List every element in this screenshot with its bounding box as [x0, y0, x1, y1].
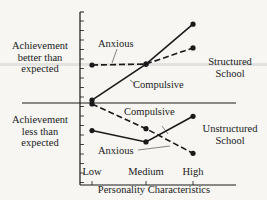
- y-region-label-top-line3: expected: [6, 63, 74, 75]
- x-axis-title: Personality Characteristics: [92, 184, 216, 196]
- group-label-unstructured-line2: School: [194, 135, 266, 147]
- data-point-unstructured-school-compulsive-low: [89, 128, 94, 133]
- x-tick-label-high: High: [180, 166, 206, 178]
- y-region-label-top-line2: better than: [6, 52, 74, 64]
- data-point-structured-school-anxious-medium: [143, 61, 148, 66]
- group-label-unstructured-school: Unstructured School: [194, 123, 266, 146]
- y-region-label-top-line1: Achievement: [6, 40, 74, 52]
- series-line-structured-school-anxious: [92, 48, 193, 65]
- data-point-structured-school-compulsive-high: [190, 22, 195, 27]
- data-point-unstructured-school-compulsive-medium: [143, 139, 148, 144]
- group-label-unstructured-line1: Unstructured: [194, 123, 266, 135]
- annotation-unstructured-compulsive: Compulsive: [124, 106, 175, 118]
- data-point-unstructured-school-compulsive-high: [190, 114, 195, 119]
- data-point-structured-school-anxious-high: [190, 45, 195, 50]
- annotation-unstructured-anxious: Anxious: [98, 145, 134, 157]
- x-tick-label-medium: Medium: [128, 166, 164, 178]
- x-tick-label-low: Low: [80, 166, 104, 178]
- data-point-unstructured-school-anxious-medium: [143, 126, 148, 131]
- leader-unstructured-anxious: [138, 146, 170, 150]
- annotation-structured-compulsive: Compulsive: [133, 79, 184, 91]
- data-point-structured-school-anxious-low: [89, 62, 94, 67]
- group-label-structured-school: Structured School: [198, 56, 262, 79]
- y-region-label-top: Achievement better than expected: [6, 40, 74, 75]
- y-region-label-bottom-line3: expected: [6, 137, 74, 149]
- y-region-label-bottom: Achievement less than expected: [6, 114, 74, 149]
- annotation-structured-anxious: Anxious: [98, 38, 134, 50]
- data-point-unstructured-school-anxious-high: [190, 151, 195, 156]
- group-label-structured-line1: Structured: [198, 56, 262, 68]
- data-point-unstructured-school-anxious-low: [89, 101, 94, 106]
- group-label-structured-line2: School: [198, 68, 262, 80]
- leader-structured-anxious: [112, 49, 117, 63]
- series-line-unstructured-school-compulsive: [92, 116, 193, 142]
- y-region-label-bottom-line2: less than: [6, 126, 74, 138]
- y-region-label-bottom-line1: Achievement: [6, 114, 74, 126]
